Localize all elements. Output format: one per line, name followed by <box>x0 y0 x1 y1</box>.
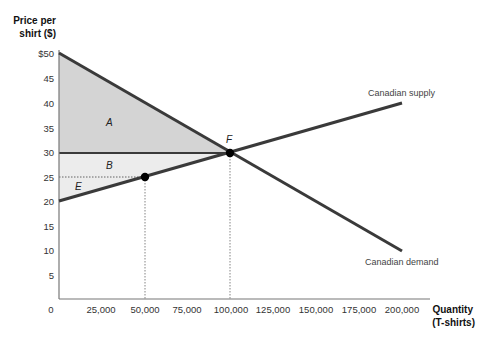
x-tick-75000: 75,000 <box>172 304 201 315</box>
x-tick-150000: 150,000 <box>299 304 333 315</box>
x-tick-125000: 125,000 <box>256 304 290 315</box>
area-e-label: E <box>75 181 82 192</box>
y-tick-45: 45 <box>43 73 54 84</box>
demand-curve-label: Canadian demand <box>365 257 439 267</box>
y-tick-30: 30 <box>43 147 54 158</box>
y-tick-10: 10 <box>43 245 54 256</box>
supply-curve-label: Canadian supply <box>368 88 436 98</box>
y-tick-15: 15 <box>43 221 54 232</box>
y-axis-title-line2: shirt ($) <box>19 28 56 39</box>
x-axis-title-line2: (T-shirts) <box>432 317 475 328</box>
x-tick-200000: 200,000 <box>385 304 419 315</box>
y-tick-5: 5 <box>49 270 54 281</box>
x-axis-title-line1: Quantity <box>432 304 473 315</box>
area-a-label: A <box>105 117 113 128</box>
point-f <box>226 149 234 157</box>
x-tick-100000: 100,000 <box>214 304 248 315</box>
y-axis-title-line1: Price per <box>13 15 56 26</box>
y-tick-25: 25 <box>43 172 54 183</box>
x-tick-175000: 175,000 <box>342 304 376 315</box>
x-tick-50000: 50,000 <box>130 304 159 315</box>
x-tick-0: 0 <box>48 304 53 315</box>
point-q50000-p25 <box>141 173 149 181</box>
y-tick-40: 40 <box>43 98 54 109</box>
area-b-label: B <box>106 160 113 171</box>
y-tick-20: 20 <box>43 196 54 207</box>
y-tick-35: 35 <box>43 123 54 134</box>
point-f-label: F <box>226 134 233 145</box>
y-tick-50: $50 <box>38 48 54 59</box>
x-tick-25000: 25,000 <box>86 304 115 315</box>
supply-demand-chart: Price per shirt ($) $50 45 40 35 30 25 2… <box>0 0 493 340</box>
